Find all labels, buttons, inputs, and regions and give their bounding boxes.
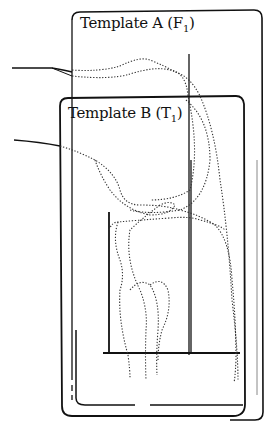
template-b-label: Template B (T1) [68,104,182,124]
template-overlay-diagram [0,0,270,426]
template-b-frame [60,96,245,416]
leader-line-template-b [14,140,60,146]
leader-line-template-a [12,68,72,72]
template-b-contours [60,146,236,382]
template-a-label: Template A (F1) [80,14,195,34]
template-a-frame [72,10,263,420]
